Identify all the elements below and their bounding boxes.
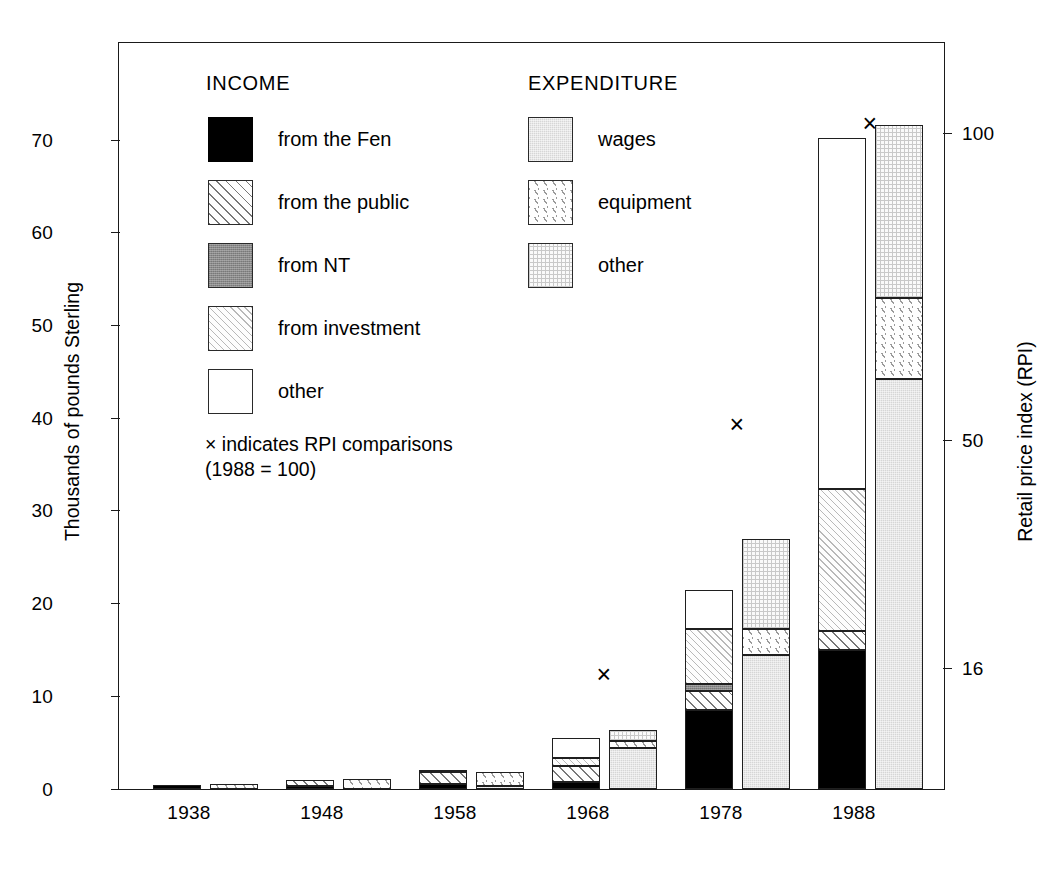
right-tick-label-100: 100 [962,124,994,143]
segment-income-from-the-fen-1978 [685,710,733,789]
left-tick-70 [111,140,120,141]
segment-expenditure-wages-1978 [742,655,790,789]
bar-expenditure-1978 [742,539,790,789]
segment-income-from-investment-1978 [685,629,733,684]
left-tick-0 [111,789,120,790]
segment-income-from-the-public-1968 [552,766,600,782]
segment-expenditure-other-1988 [875,125,923,297]
rpi-marker-1988: × [863,111,878,136]
left-tick-label-60: 60 [31,223,53,242]
segment-expenditure-equipment-1958 [476,772,524,786]
left-tick-40 [111,418,120,419]
x-tick-label-1978: 1978 [661,802,781,824]
legend-label-wages: wages [598,117,656,162]
segment-income-from-the-fen-1958 [419,784,467,789]
right-tick-label-50: 50 [962,431,984,450]
left-tick-label-30: 30 [31,501,53,520]
segment-income-from-investment-1958 [419,770,467,772]
legend-label-equipment: equipment [598,180,691,225]
left-tick-label-10: 10 [31,687,53,706]
right-tick-50 [943,440,952,441]
x-tick-label-1968: 1968 [528,802,648,824]
segment-income-from-the-fen-1968 [552,782,600,789]
segment-income-from-investment-1968 [552,758,600,766]
segment-expenditure-equipment-1948 [343,779,391,789]
rpi-comparison-note: × indicates RPI comparisons (1988 = 100) [205,432,453,482]
x-tick-label-1988: 1988 [794,802,914,824]
left-tick-20 [111,603,120,604]
legend-expenditure-heading: EXPENDITURE [528,72,678,95]
segment-income-other-1978 [685,590,733,629]
bar-expenditure-1938 [210,784,258,789]
right-tick-label-16: 16 [962,659,984,678]
segment-expenditure-other-1968 [609,730,657,741]
bar-income-1978 [685,590,733,789]
segment-income-other-1968 [552,738,600,758]
right-tick-16 [943,668,952,669]
bar-expenditure-1988 [875,125,923,789]
left-axis-title: Thousands of pounds Sterling [61,262,84,562]
legend-swatch-equipment [528,180,573,225]
bar-income-1938 [153,785,201,789]
segment-income-from-the-fen-1948 [286,786,334,789]
segment-expenditure-other-1978 [742,539,790,629]
legend-swatch-other-income [208,369,253,414]
segment-income-from-the-public-1958 [419,772,467,784]
left-tick-50 [111,325,120,326]
bar-expenditure-1958 [476,772,524,789]
left-tick-60 [111,232,120,233]
legend-label-other-income: other [278,369,324,414]
bar-income-1948 [286,780,334,789]
left-tick-label-40: 40 [31,409,53,428]
bar-expenditure-1968 [609,730,657,789]
segment-income-from-nt-1978 [685,684,733,691]
left-tick-label-50: 50 [31,316,53,335]
legend-swatch-other-expenditure [528,243,573,288]
legend-label-from-investment: from investment [278,306,420,351]
segment-expenditure-wages-1958 [476,786,524,789]
legend-label-other-expenditure: other [598,243,644,288]
segment-income-from-investment-1988 [818,489,866,631]
legend-label-from-the-public: from the public [278,180,409,225]
x-tick-label-1948: 1948 [262,802,382,824]
right-tick-100 [943,133,952,134]
bar-expenditure-1948 [343,779,391,789]
legend-label-from-the-fen: from the Fen [278,117,391,162]
bar-income-1968 [552,738,600,789]
chart-figure: 0 10 20 30 40 50 60 70 Thousands of poun… [0,0,1061,896]
legend-label-from-nt: from NT [278,243,350,288]
segment-expenditure-wages-1968 [609,748,657,789]
segment-expenditure-wages-1988 [875,379,923,789]
segment-income-from-the-public-1978 [685,691,733,710]
rpi-marker-1968: × [597,662,612,687]
legend-swatch-wages [528,117,573,162]
segment-income-from-the-public-1948 [286,780,334,786]
legend-income-heading: INCOME [206,72,290,95]
left-tick-30 [111,510,120,511]
rpi-marker-1978: × [730,412,745,437]
left-tick-10 [111,696,120,697]
segment-income-from-the-fen-1988 [818,650,866,789]
legend-swatch-from-nt [208,243,253,288]
bar-income-1988 [818,138,866,789]
legend-swatch-from-the-fen [208,117,253,162]
legend-swatch-from-investment [208,306,253,351]
segment-income-from-the-public-1988 [818,631,866,650]
segment-expenditure-equipment-1988 [875,298,923,380]
x-tick-label-1958: 1958 [395,802,515,824]
segment-expenditure-equipment-1968 [609,741,657,747]
segment-income-other-1988 [818,138,866,488]
x-tick-label-1938: 1938 [129,802,249,824]
left-tick-label-20: 20 [31,594,53,613]
segment-expenditure-equipment-1978 [742,629,790,655]
right-axis-title: Retail price index (RPI) [1014,292,1037,592]
segment-income-from-the-fen-1938 [153,785,201,789]
left-tick-label-70: 70 [31,131,53,150]
segment-expenditure-equipment-1938 [210,784,258,789]
left-tick-label-0: 0 [42,780,53,799]
bar-income-1958 [419,770,467,789]
legend-swatch-from-the-public [208,180,253,225]
